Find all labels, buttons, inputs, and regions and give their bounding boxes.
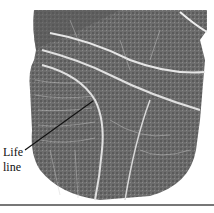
divider <box>0 204 214 206</box>
palm-print-figure: Life line <box>0 0 214 213</box>
life-line-label-2: line <box>3 160 21 174</box>
life-line-label-1: Life <box>3 145 23 159</box>
palm-print-image <box>0 0 214 213</box>
